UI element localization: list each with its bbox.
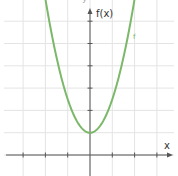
curve-label-f: f [133,34,135,41]
cropped-title-fragment: y [82,0,87,3]
axes [6,8,173,176]
function-graph [0,0,178,176]
x-axis-label: x [164,141,170,151]
y-axis-label: f(x) [96,9,113,19]
